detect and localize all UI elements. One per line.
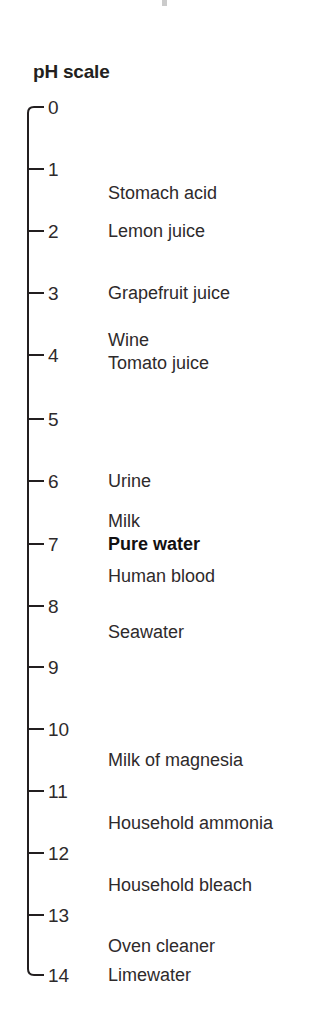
substance-label: Wine — [108, 331, 149, 349]
substance-label: Lemon juice — [108, 222, 205, 240]
substance-label: Seawater — [108, 623, 184, 641]
tick-label-14: 14 — [48, 966, 69, 985]
tick-label-6: 6 — [48, 472, 59, 491]
axis-spine — [28, 107, 44, 975]
substance-label: Pure water — [108, 535, 200, 553]
substance-label: Limewater — [108, 966, 191, 984]
tick-label-2: 2 — [48, 222, 59, 241]
substance-label: Household bleach — [108, 876, 252, 894]
tick-label-12: 12 — [48, 844, 69, 863]
tick-label-10: 10 — [48, 720, 69, 739]
axis-line-group — [28, 107, 44, 975]
tick-label-3: 3 — [48, 284, 59, 303]
substance-label: Stomach acid — [108, 184, 217, 202]
substance-label: Tomato juice — [108, 354, 209, 372]
tick-label-9: 9 — [48, 658, 59, 677]
tick-label-5: 5 — [48, 410, 59, 429]
tick-label-8: 8 — [48, 597, 59, 616]
tick-label-13: 13 — [48, 906, 69, 925]
substance-label: Milk — [108, 512, 140, 530]
substance-label: Milk of magnesia — [108, 751, 243, 769]
substance-label: Urine — [108, 472, 151, 490]
tick-label-0: 0 — [48, 98, 59, 117]
substance-label: Grapefruit juice — [108, 284, 230, 302]
tick-label-11: 11 — [48, 782, 68, 801]
ph-scale-diagram: pH scale 01234567891011121314 Stomach ac… — [0, 0, 326, 1029]
substance-label: Oven cleaner — [108, 937, 215, 955]
tick-label-7: 7 — [48, 535, 59, 554]
substance-label: Household ammonia — [108, 814, 273, 832]
tick-label-4: 4 — [48, 346, 59, 365]
tick-label-1: 1 — [48, 160, 59, 179]
substance-label: Human blood — [108, 567, 215, 585]
